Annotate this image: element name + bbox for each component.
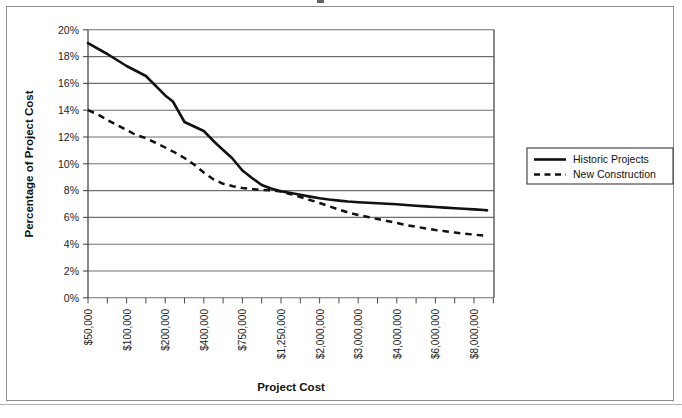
x-tick-label: $100,000	[122, 309, 133, 351]
x-tick-label: $400,000	[199, 309, 210, 351]
y-axis-title: Percentage of Project Cost	[23, 90, 35, 237]
x-tick-label: $8,000,000	[469, 309, 480, 359]
legend-label-historic-projects: Historic Projects	[573, 153, 649, 165]
y-tick-label: 6%	[64, 211, 79, 223]
y-tick-label: 4%	[64, 238, 79, 250]
x-axis-title: Project Cost	[257, 381, 325, 393]
y-tick-label: 12%	[58, 131, 79, 143]
y-axis-tick-labels: 20% 18% 16% 14% 12% 10% 8% 6% 4% 2% 0%	[58, 24, 79, 304]
y-tick-label: 18%	[58, 50, 79, 62]
y-tick-label: 10%	[58, 158, 79, 170]
y-tick-label: 20%	[58, 24, 79, 36]
y-tick-label: 14%	[58, 104, 79, 116]
y-axis-ticks	[83, 30, 88, 298]
chart-legend: Historic Projects New Construction	[527, 148, 673, 184]
chart-figure: Percentage of Project Cost Project Cost	[0, 0, 682, 418]
y-tick-label: 8%	[64, 184, 79, 196]
x-tick-label: $2,000,000	[315, 309, 326, 359]
x-tick-label: $750,000	[237, 309, 248, 351]
x-tick-label: $1,250,000	[276, 309, 287, 359]
x-tick-label: $6,000,000	[430, 309, 441, 359]
x-tick-label: $3,000,000	[353, 309, 364, 359]
x-axis-tick-labels: $50,000 $100,000 $200,000 $400,000 $750,…	[83, 309, 480, 359]
x-tick-label: $4,000,000	[392, 309, 403, 359]
x-axis-ticks	[88, 298, 493, 304]
y-tick-label: 16%	[58, 77, 79, 89]
x-tick-label: $50,000	[83, 309, 94, 346]
legend-label-new-construction: New Construction	[573, 168, 656, 180]
y-axis-gridlines	[88, 30, 494, 298]
series-historic-projects-line	[88, 43, 487, 210]
x-tick-label: $200,000	[160, 309, 171, 351]
y-tick-label: 0%	[64, 292, 79, 304]
y-tick-label: 2%	[64, 265, 79, 277]
line-chart: Percentage of Project Cost Project Cost	[0, 0, 682, 418]
